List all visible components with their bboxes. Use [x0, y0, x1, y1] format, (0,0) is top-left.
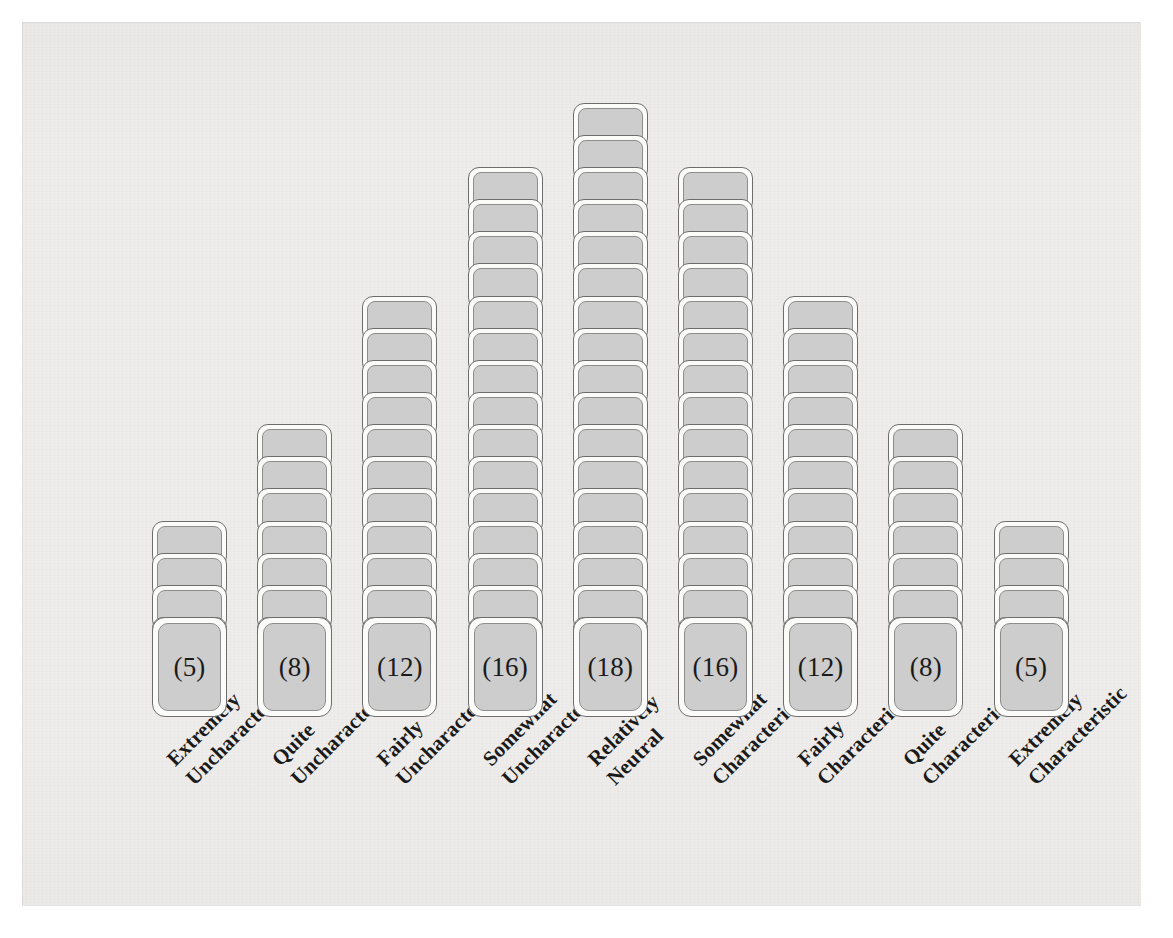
- card-face: (8): [263, 623, 326, 711]
- card-stack-column[interactable]: (16): [678, 0, 753, 938]
- base-card[interactable]: (18): [573, 617, 648, 717]
- qsort-distribution-plot: (5)(8)(12)(16)(18)(16)(12)(8)(5): [0, 0, 1173, 938]
- column-count-label: (16): [693, 654, 739, 681]
- base-card[interactable]: (8): [888, 617, 963, 717]
- column-count-label: (8): [910, 654, 942, 681]
- column-count-label: (12): [377, 654, 423, 681]
- card-face: (12): [368, 623, 431, 711]
- card-stack-column[interactable]: (5): [994, 0, 1069, 938]
- figure-root: (5)(8)(12)(16)(18)(16)(12)(8)(5) Extreme…: [0, 0, 1173, 938]
- base-card[interactable]: (12): [362, 617, 437, 717]
- column-count-label: (5): [1015, 654, 1047, 681]
- card-face: (5): [158, 623, 221, 711]
- card-face: (16): [684, 623, 747, 711]
- card-stack-column[interactable]: (8): [257, 0, 332, 938]
- base-card[interactable]: (5): [152, 617, 227, 717]
- card-face: (18): [579, 623, 642, 711]
- base-card[interactable]: (16): [468, 617, 543, 717]
- column-count-label: (8): [279, 654, 311, 681]
- card-face: (16): [474, 623, 537, 711]
- card-stack-column[interactable]: (8): [888, 0, 963, 938]
- base-card[interactable]: (5): [994, 617, 1069, 717]
- column-count-label: (16): [482, 654, 528, 681]
- base-card[interactable]: (16): [678, 617, 753, 717]
- card-stack-column[interactable]: (12): [362, 0, 437, 938]
- column-count-label: (12): [798, 654, 844, 681]
- base-card[interactable]: (12): [783, 617, 858, 717]
- card-face: (8): [894, 623, 957, 711]
- card-face: (5): [1000, 623, 1063, 711]
- column-count-label: (18): [587, 654, 633, 681]
- card-face: (12): [789, 623, 852, 711]
- card-stack-column[interactable]: (12): [783, 0, 858, 938]
- card-stack-column[interactable]: (5): [152, 0, 227, 938]
- base-card[interactable]: (8): [257, 617, 332, 717]
- column-count-label: (5): [173, 654, 205, 681]
- card-stack-column[interactable]: (18): [573, 0, 648, 938]
- card-stack-column[interactable]: (16): [468, 0, 543, 938]
